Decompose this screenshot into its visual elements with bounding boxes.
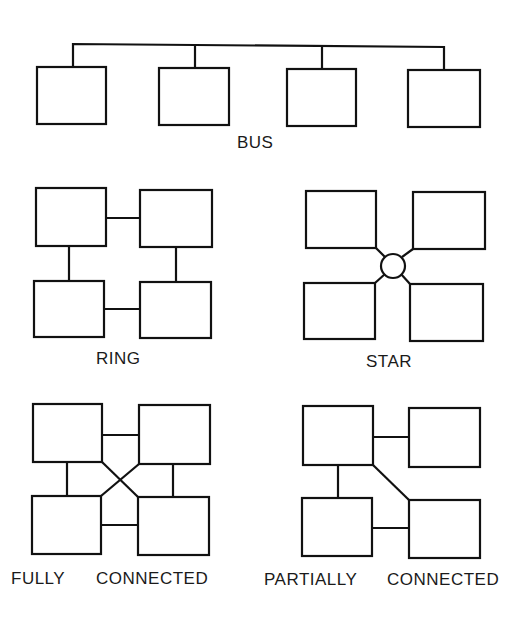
pc-node-4 bbox=[409, 500, 480, 558]
bus-node-3 bbox=[287, 69, 356, 126]
star-topology: STAR bbox=[304, 191, 485, 371]
partially-connected-topology: PARTIALLY CONNECTED bbox=[264, 406, 499, 589]
pc-link-diag bbox=[373, 465, 409, 500]
ring-node-4 bbox=[140, 282, 211, 338]
fc-node-1 bbox=[33, 404, 102, 462]
bus-topology: BUS bbox=[37, 44, 480, 152]
star-node-4 bbox=[410, 284, 483, 341]
star-node-2 bbox=[413, 192, 485, 249]
pc-node-3 bbox=[302, 498, 372, 556]
bus-node-2 bbox=[159, 68, 229, 125]
star-label: STAR bbox=[366, 352, 412, 371]
bus-label: BUS bbox=[237, 133, 273, 152]
fc-label-word1: FULLY bbox=[11, 569, 65, 588]
ring-label: RING bbox=[96, 349, 141, 368]
network-topology-diagram: BUS RING STAR FULLY bbox=[0, 0, 530, 617]
star-node-1 bbox=[306, 191, 376, 248]
star-hub bbox=[381, 254, 405, 278]
ring-topology: RING bbox=[34, 188, 212, 368]
pc-label-word1: PARTIALLY bbox=[264, 570, 357, 589]
pc-node-1 bbox=[303, 406, 373, 465]
ring-node-3 bbox=[34, 281, 104, 337]
ring-node-2 bbox=[140, 190, 212, 247]
bus-node-4 bbox=[408, 70, 480, 127]
fc-node-4 bbox=[138, 497, 209, 555]
star-node-3 bbox=[304, 283, 375, 339]
ring-node-1 bbox=[36, 188, 106, 246]
pc-node-2 bbox=[409, 408, 480, 467]
fc-node-3 bbox=[32, 496, 101, 554]
fc-node-2 bbox=[139, 405, 210, 464]
star-link-4 bbox=[401, 274, 410, 284]
bus-backbone bbox=[73, 44, 444, 70]
star-link-2 bbox=[402, 249, 413, 257]
fully-connected-topology: FULLY CONNECTED bbox=[11, 404, 210, 588]
fc-label-word2: CONNECTED bbox=[96, 569, 208, 588]
star-link-3 bbox=[375, 274, 385, 283]
bus-node-1 bbox=[37, 67, 106, 124]
star-link-1 bbox=[376, 248, 385, 257]
pc-label-word2: CONNECTED bbox=[387, 570, 499, 589]
